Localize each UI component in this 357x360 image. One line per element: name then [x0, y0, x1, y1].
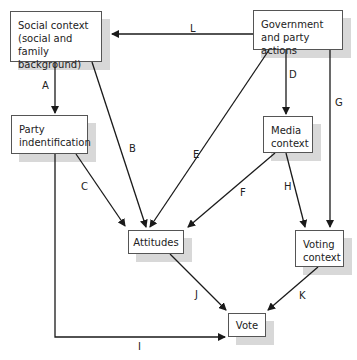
diagram-canvas: Social context (social and family backgr… [0, 0, 357, 360]
edge-label-e: E [193, 150, 199, 160]
node-vote-label: Vote [236, 320, 258, 331]
node-party-id-label: Party indentification [19, 124, 91, 148]
edge-label-k: K [299, 291, 306, 301]
node-voting-context-label: Voting context [303, 239, 341, 263]
node-party-identification: Party indentification [11, 115, 88, 154]
node-attitudes: Attitudes [128, 230, 184, 254]
node-social-context: Social context (social and family backgr… [10, 11, 102, 62]
edge-label-i: I [138, 342, 141, 352]
edge-label-b: B [129, 144, 136, 154]
node-media-context: Media context [263, 116, 313, 153]
edge-label-d: D [289, 70, 297, 80]
node-vote: Vote [228, 313, 266, 337]
node-government-actions: Government and party actions [253, 10, 343, 50]
node-social-context-label: Social context (social and family backgr… [18, 20, 89, 70]
node-attitudes-label: Attitudes [133, 237, 178, 248]
edge-label-h: H [284, 182, 292, 192]
edge-label-a: A [42, 81, 49, 91]
node-voting-context: Voting context [295, 230, 344, 267]
edge-label-f: F [240, 188, 246, 198]
edge-label-g: G [335, 98, 343, 108]
edge-label-c: C [81, 182, 88, 192]
edge-label-l: L [190, 24, 196, 34]
node-media-label: Media context [271, 125, 309, 149]
edge-label-j: J [195, 290, 198, 300]
